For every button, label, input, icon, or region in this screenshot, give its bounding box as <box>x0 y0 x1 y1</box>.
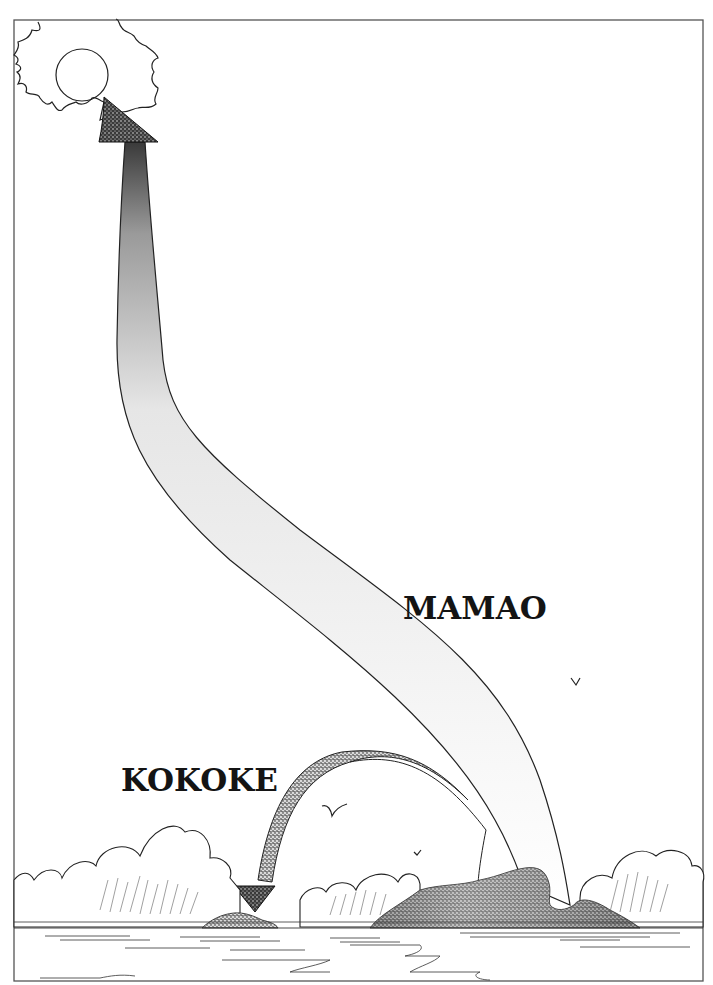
bird-icon <box>571 678 580 685</box>
illustration-canvas <box>0 0 713 985</box>
mamao-arrowhead-icon <box>99 97 158 142</box>
kokoke-flow-arrow <box>258 751 468 882</box>
picture-frame <box>14 20 703 981</box>
water-reflections <box>40 933 690 980</box>
mamao-label: MAMAO <box>403 593 547 624</box>
sun-icon <box>14 19 158 120</box>
bird-icon <box>322 804 347 816</box>
bird-icon <box>414 850 421 855</box>
kokoke-branch-line <box>350 759 486 885</box>
kokoke-label: KOKOKE <box>121 765 278 796</box>
